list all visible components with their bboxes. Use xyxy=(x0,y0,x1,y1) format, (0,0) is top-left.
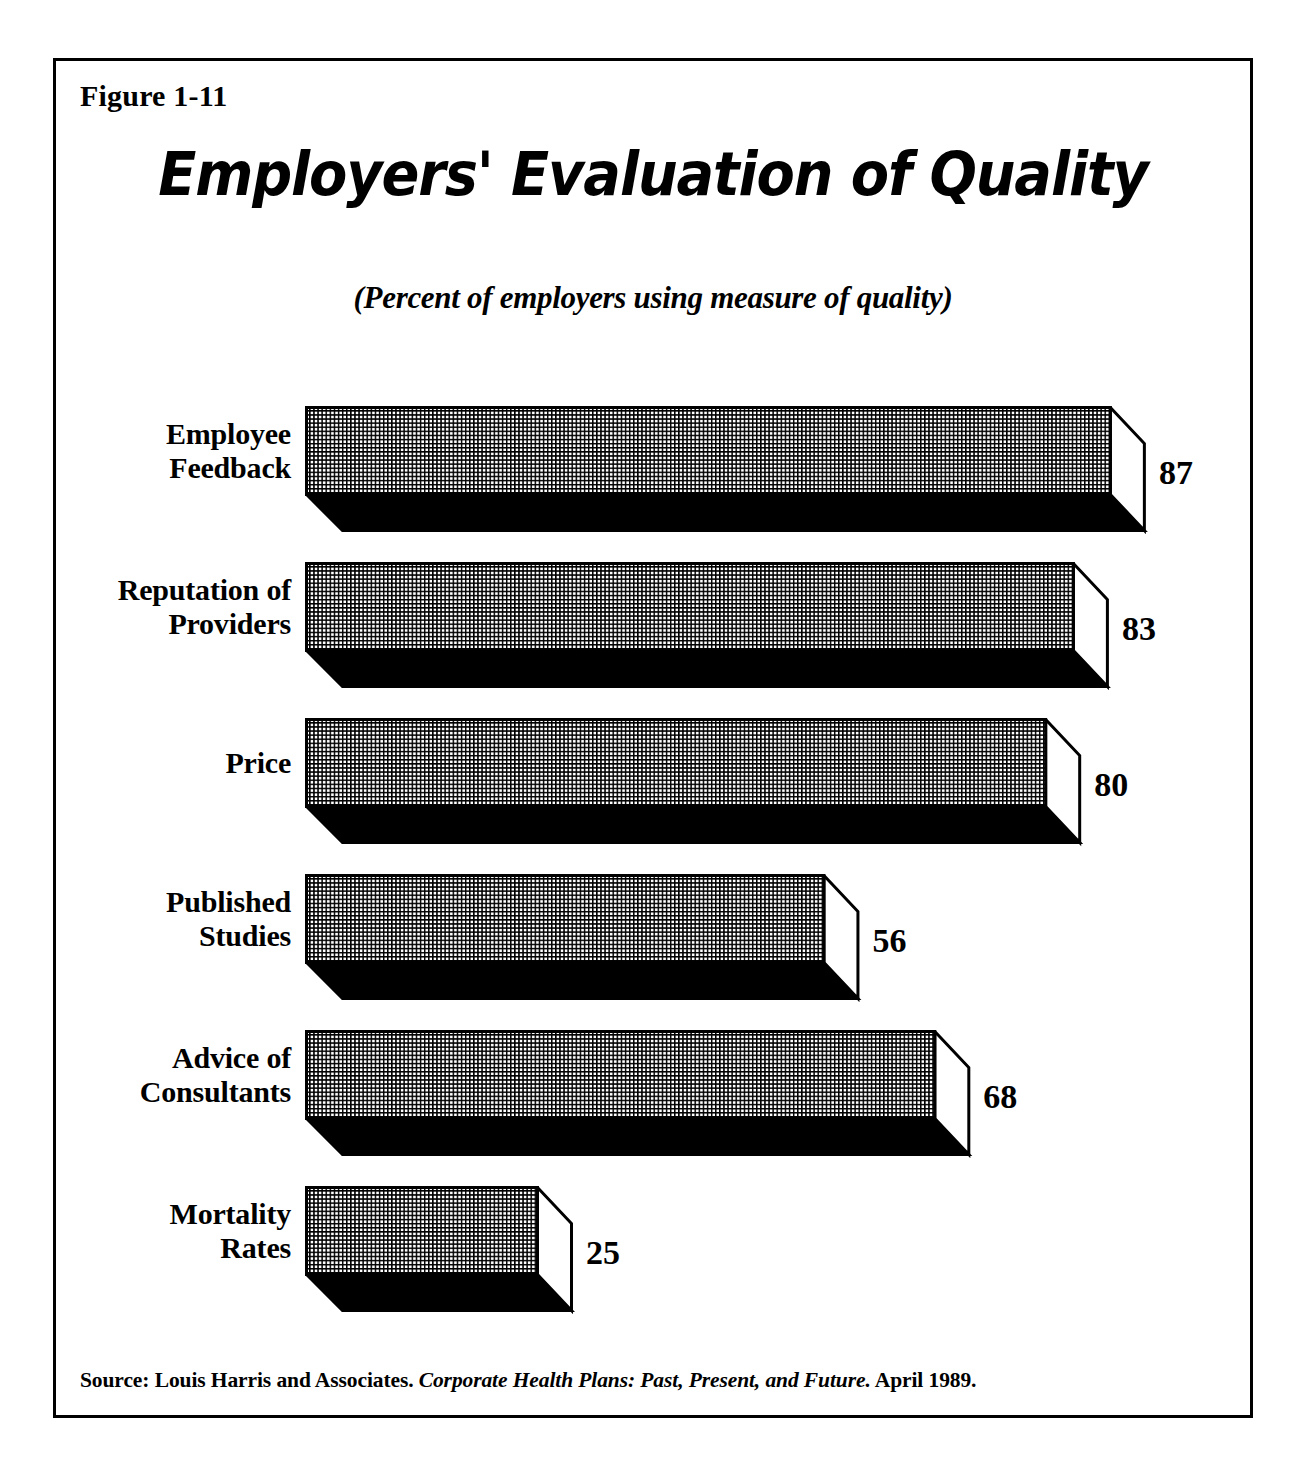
bar-front-face xyxy=(306,720,1045,807)
bar-front-face xyxy=(307,1188,538,1275)
bar-front-face xyxy=(306,1032,934,1119)
bar-value-label: 56 xyxy=(872,922,906,960)
bar-category-label-line: Advice of xyxy=(62,1041,291,1075)
figure-frame: Figure 1-11 Employers' Evaluation of Qua… xyxy=(53,58,1253,1418)
bar-category-label-line: Reputation of xyxy=(62,573,291,607)
bar-category-label-line: Providers xyxy=(62,607,291,641)
bar-3d-shape xyxy=(305,1186,576,1315)
bar-category-label: Price xyxy=(62,746,291,780)
source-note: Source: Louis Harris and Associates. Cor… xyxy=(80,1368,976,1393)
bar-bottom-face xyxy=(306,1118,968,1154)
bar-category-label: MortalityRates xyxy=(62,1197,291,1265)
bar-category-label-line: Studies xyxy=(62,919,291,953)
bar-value-label: 80 xyxy=(1094,766,1128,804)
bar-row: EmployeeFeedback87 xyxy=(56,406,1250,529)
source-publication-title: Corporate Health Plans: Past, Present, a… xyxy=(419,1368,871,1392)
bar-row: Advice ofConsultants68 xyxy=(56,1030,1250,1153)
bar-value-label: 87 xyxy=(1159,454,1193,492)
bar-value-label: 83 xyxy=(1122,610,1156,648)
bar-category-label-line: Published xyxy=(62,885,291,919)
bar-category-label-line: Employee xyxy=(62,417,291,451)
bar-3d-shape xyxy=(305,406,1149,535)
bar-value-label: 25 xyxy=(586,1234,620,1272)
bar-category-label: Advice ofConsultants xyxy=(62,1041,291,1109)
bar-category-label-line: Consultants xyxy=(62,1075,291,1109)
source-prefix: Source: Louis Harris and Associates. xyxy=(80,1368,413,1392)
bar-front-face xyxy=(307,408,1111,495)
bar-category-label: PublishedStudies xyxy=(62,885,291,953)
bar-bottom-face xyxy=(307,1275,572,1311)
bar-category-label-line: Feedback xyxy=(62,451,291,485)
bar-3d-shape xyxy=(305,562,1112,691)
bar-front-face xyxy=(307,876,824,963)
bar-3d-shape xyxy=(305,874,862,1003)
bar-row: MortalityRates25 xyxy=(56,1186,1250,1309)
bar-bottom-face xyxy=(306,806,1079,842)
bar-category-label-line: Price xyxy=(62,746,291,780)
bar-category-label-line: Rates xyxy=(62,1231,291,1265)
bar-bottom-face xyxy=(307,494,1145,530)
bar-value-label: 68 xyxy=(983,1078,1017,1116)
bar-row: Price80 xyxy=(56,718,1250,841)
bar-category-label: Reputation ofProviders xyxy=(62,573,291,641)
bar-3d-shape xyxy=(305,1030,973,1159)
bar-bottom-face xyxy=(306,650,1107,686)
bar-row: PublishedStudies56 xyxy=(56,874,1250,997)
bar-chart-plot-area: EmployeeFeedback87Reputation ofProviders… xyxy=(56,61,1250,1415)
bar-row: Reputation ofProviders83 xyxy=(56,562,1250,685)
bar-bottom-face xyxy=(307,962,858,998)
source-date: April 1989. xyxy=(875,1368,977,1392)
bar-category-label: EmployeeFeedback xyxy=(62,417,291,485)
bar-3d-shape xyxy=(305,718,1084,847)
bar-category-label-line: Mortality xyxy=(62,1197,291,1231)
bar-front-face xyxy=(306,564,1073,651)
